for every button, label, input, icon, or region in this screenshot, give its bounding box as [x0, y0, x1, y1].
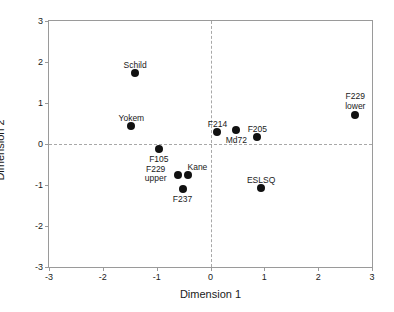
x-axis-tick	[318, 267, 319, 271]
y-axis-tick-label: 2	[38, 58, 43, 67]
x-axis-tick	[103, 267, 104, 271]
data-point	[179, 185, 187, 193]
y-axis-tick-label: -3	[35, 263, 43, 272]
x-axis-tick-label: 2	[316, 273, 321, 282]
y-axis-tick-label: 1	[38, 99, 43, 108]
x-axis-tick-label: 1	[262, 273, 267, 282]
data-point-label: F229 lower	[345, 92, 365, 111]
data-point-label: F205	[248, 125, 267, 135]
data-point-label: Md72	[226, 136, 247, 146]
x-axis-tick	[372, 267, 373, 271]
x-axis-tick-label: -1	[153, 273, 161, 282]
x-axis-tick-label: -3	[45, 273, 53, 282]
y-axis-tick	[45, 185, 49, 186]
y-axis-tick	[45, 144, 49, 145]
data-point-label: Yokem	[119, 114, 145, 124]
data-point	[232, 126, 240, 134]
data-point-label: F214	[208, 120, 227, 130]
data-point	[351, 111, 359, 119]
scatter-plot-figure: -3-2-10123-3-2-10123SchildYokemF229 lowe…	[0, 0, 394, 312]
data-point-label: F229 upper	[145, 165, 167, 184]
x-axis-tick	[157, 267, 158, 271]
y-axis-tick	[45, 226, 49, 227]
data-point-label: Schild	[124, 61, 147, 71]
data-point	[155, 145, 163, 153]
x-axis-tick-label: 0	[208, 273, 213, 282]
x-axis-tick	[49, 267, 50, 271]
x-axis-tick-label: -2	[99, 273, 107, 282]
y-axis-tick-label: -2	[35, 222, 43, 231]
x-axis-tick-label: 3	[369, 273, 374, 282]
horizontal-zero-reference-line	[49, 144, 372, 145]
data-point	[174, 171, 182, 179]
x-axis-title: Dimension 1	[48, 288, 373, 300]
y-axis-tick-label: 3	[38, 17, 43, 26]
y-axis-tick-label: -1	[35, 181, 43, 190]
x-axis-tick	[264, 267, 265, 271]
y-axis-tick	[45, 62, 49, 63]
y-axis-title: Dimension 2	[0, 90, 6, 210]
y-axis-tick	[45, 21, 49, 22]
data-point-label: ESLSQ	[247, 176, 275, 186]
x-axis-tick	[211, 267, 212, 271]
data-point-label: F237	[173, 195, 192, 205]
y-axis-tick	[45, 103, 49, 104]
plot-area: -3-2-10123-3-2-10123SchildYokemF229 lowe…	[48, 20, 373, 268]
data-point-label: Kane	[187, 163, 207, 173]
y-axis-tick-label: 0	[38, 140, 43, 149]
